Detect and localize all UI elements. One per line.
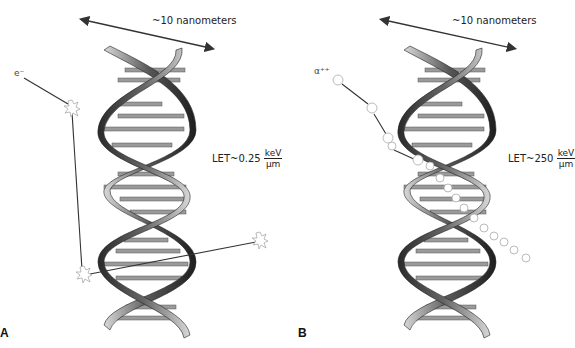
panel-letter-b: B [298,326,307,340]
let-value-a: LET~0.25 keVµm [212,148,282,169]
let-value-b: LET~250 keVµm [508,148,575,169]
panel-a-electron-track: ~10 nanometers e⁻ LET~0.25 keVµm A [0,0,290,348]
let-unit-fraction: keVµm [557,148,575,169]
scale-label: ~10 nanometers [452,15,537,26]
panel-letter-a: A [0,326,9,340]
panel-b-diagram [290,0,571,348]
scale-label: ~10 nanometers [152,15,237,26]
panel-a-diagram [0,0,290,348]
alpha-label: α⁺⁺ [314,66,329,76]
panel-b-alpha-track: ~10 nanometers α⁺⁺ LET~250 keVµm B [290,0,571,348]
dna-double-helix [98,46,196,338]
electron-label: e⁻ [14,68,24,78]
let-unit-fraction: keVµm [264,148,283,169]
